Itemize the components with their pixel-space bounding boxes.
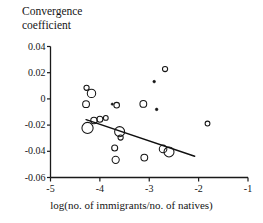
- data-point: [97, 116, 103, 122]
- data-point: [140, 100, 147, 107]
- y-tick-label: 0.02: [4, 67, 46, 78]
- data-points: [82, 66, 210, 163]
- x-tick-label: -5: [40, 183, 62, 194]
- y-tick-label: -0.02: [4, 119, 46, 130]
- x-tick-label: -2: [188, 183, 210, 194]
- data-point: [155, 108, 158, 111]
- data-point: [153, 80, 156, 83]
- y-tick-label: -0.06: [4, 172, 46, 183]
- y-tick-label: 0: [4, 93, 46, 104]
- data-point: [112, 145, 118, 151]
- trend-line: [86, 120, 195, 157]
- x-tick-label: -3: [138, 183, 160, 194]
- x-tick-label: -4: [89, 183, 111, 194]
- data-point: [141, 154, 148, 161]
- data-point: [114, 102, 120, 108]
- data-point: [103, 115, 108, 120]
- y-tick-label: 0.04: [4, 41, 46, 52]
- data-point: [111, 103, 113, 105]
- tick-marks: [47, 47, 248, 182]
- regression-line: [86, 120, 195, 157]
- x-tick-label: -1: [237, 183, 259, 194]
- scatter-plot-figure: Convergence coefficient 0.040.020-0.02-0…: [0, 0, 263, 223]
- data-point: [112, 156, 119, 163]
- axis-lines: [51, 47, 249, 178]
- y-tick-label: -0.04: [4, 145, 46, 156]
- data-point: [118, 135, 123, 140]
- data-point: [87, 89, 95, 97]
- data-point: [205, 121, 210, 126]
- data-point: [84, 85, 89, 90]
- x-axis-label: log(no. of immigrants/no. of natives): [0, 199, 263, 211]
- data-point: [82, 122, 93, 133]
- data-point: [83, 101, 90, 108]
- data-point: [162, 66, 167, 71]
